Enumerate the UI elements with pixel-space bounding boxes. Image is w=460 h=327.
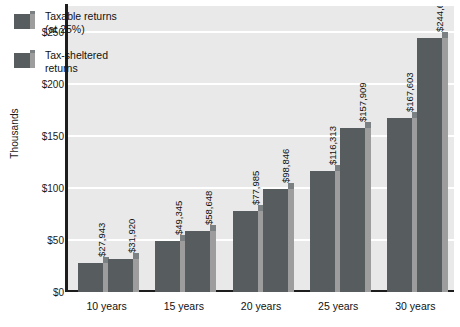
bar	[387, 118, 412, 292]
bar-front-face	[340, 128, 365, 292]
bar-side-face	[442, 38, 448, 292]
bar-front-face	[185, 231, 210, 292]
x-axis-tick-label: 25 years	[318, 300, 358, 312]
y-axis-tick-label: $100	[2, 183, 64, 194]
bar	[310, 171, 335, 292]
plot-area: $27,943$31,920$49,345$58,648$77,985$98,8…	[68, 6, 454, 292]
bar	[155, 241, 180, 292]
bar-value-label: $31,920	[126, 218, 137, 252]
bar-top-face	[133, 253, 139, 259]
x-axis-tick-label: 20 years	[241, 300, 281, 312]
x-axis-tick-label: 10 years	[86, 300, 126, 312]
bar-value-label: $58,648	[203, 191, 214, 225]
bar-front-face	[387, 118, 412, 292]
bar-side-face	[133, 259, 139, 292]
legend-item-label: Taxable returns (at 25%)	[45, 10, 117, 35]
bar	[78, 263, 103, 292]
bars-layer: $27,943$31,920$49,345$58,648$77,985$98,8…	[68, 6, 454, 292]
bar-side-face	[288, 189, 294, 292]
legend-item-label: Tax-sheltered returns	[45, 49, 108, 74]
bar-side-face	[365, 128, 371, 292]
x-axis-tick-label: 30 years	[395, 300, 435, 312]
bar-value-label: $157,909	[357, 82, 368, 122]
bar	[263, 189, 288, 292]
bar-top-face	[288, 183, 294, 189]
bar-front-face	[263, 189, 288, 292]
bar	[233, 211, 258, 292]
y-axis-tick-label: $150	[2, 131, 64, 142]
bar-front-face	[417, 38, 442, 292]
chart-legend: Taxable returns (at 25%)Tax-sheltered re…	[14, 10, 117, 88]
bar-front-face	[155, 241, 180, 292]
x-axis-tick-label: 15 years	[164, 300, 204, 312]
y-axis-tick-label: $0	[2, 287, 64, 298]
bar-front-face	[108, 259, 133, 292]
bar-value-label: $98,846	[280, 149, 291, 183]
bar-value-label: $116,313	[327, 126, 338, 165]
bar-top-face	[365, 122, 371, 128]
legend-swatch-icon	[14, 11, 35, 29]
bar-value-label: $49,345	[173, 200, 184, 234]
x-axis-tick-labels: 10 years15 years20 years25 years30 years	[68, 296, 454, 320]
bar	[185, 231, 210, 292]
bar	[417, 38, 442, 292]
bar-value-label: $77,985	[250, 171, 261, 205]
legend-swatch-icon	[14, 50, 35, 68]
legend-item: Tax-sheltered returns	[14, 49, 117, 74]
bar-front-face	[310, 171, 335, 292]
bar	[340, 128, 365, 292]
bar	[108, 259, 133, 292]
bar-front-face	[78, 263, 103, 292]
y-axis-tick-label: $50	[2, 235, 64, 246]
bar-chart: Thousands $0$50$100$150$200$250 $27,943$…	[0, 0, 460, 327]
bar-value-label: $27,943	[96, 223, 107, 257]
legend-item: Taxable returns (at 25%)	[14, 10, 117, 35]
bar-top-face	[210, 225, 216, 231]
bar-side-face	[210, 231, 216, 292]
bar-front-face	[233, 211, 258, 292]
bar-value-label: $244,691	[434, 6, 445, 32]
bar-top-face	[442, 32, 448, 38]
bar-value-label: $167,603	[404, 72, 415, 112]
